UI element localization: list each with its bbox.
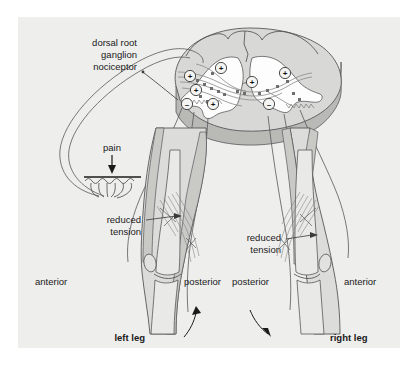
synapse-sign: + xyxy=(283,69,288,78)
label-anterior-left: anterior xyxy=(35,276,67,287)
synapse-sign: + xyxy=(211,100,216,109)
synapse-sign: + xyxy=(194,86,199,95)
label-dorsal-root-line1: dorsal root xyxy=(92,37,137,48)
dorsal-root-leader xyxy=(144,73,178,100)
synapse-sign: – xyxy=(185,100,190,109)
synapse-sign: – xyxy=(267,100,272,109)
synapse-marker-plus: + xyxy=(207,98,218,109)
movement-arrows xyxy=(184,306,271,337)
label-reduced-tension-right-line1: reduced xyxy=(247,232,281,243)
synapse-marker-plus: + xyxy=(215,62,226,73)
right-leg-motion-arrowhead xyxy=(262,328,271,337)
left-leg-group xyxy=(141,128,206,334)
label-posterior-right: posterior xyxy=(232,276,269,287)
synapse-marker-plus: + xyxy=(279,67,290,78)
label-dorsal-root-line3: nociceptor xyxy=(93,61,137,72)
label-reduced-tension-right-line2: tension xyxy=(250,244,281,255)
dorsal-root-leader-dot xyxy=(142,71,145,74)
right-leg-group xyxy=(277,128,340,334)
label-pain: pain xyxy=(103,142,121,153)
right-leg-tibia xyxy=(297,280,324,334)
label-right-leg: right leg xyxy=(330,332,368,343)
left-leg-motion-arrow xyxy=(184,313,196,337)
label-reduced-tension-left-line1: reduced xyxy=(107,214,141,225)
label-dorsal-root-line2: ganglion xyxy=(101,49,137,60)
synapse-marker-plus: + xyxy=(246,76,257,87)
synapse-marker-minus: – xyxy=(181,98,192,109)
left-leg-tibia xyxy=(151,280,178,334)
skin-receptor-group xyxy=(84,155,141,198)
free-nerve-endings xyxy=(91,183,132,198)
label-left-leg: left leg xyxy=(114,332,145,343)
figure-canvas: +++–+++– xyxy=(0,0,416,371)
label-reduced-tension-left-line2: tension xyxy=(110,226,141,237)
synapse-marker-minus: – xyxy=(263,98,274,109)
synapse-marker-plus: + xyxy=(190,84,201,95)
diagram-svg: +++–+++– xyxy=(0,0,416,371)
left-leg-motion-arrowhead xyxy=(192,306,201,315)
skin-wavy-layer xyxy=(85,179,134,184)
synapse-marker-plus: + xyxy=(184,70,195,81)
label-anterior-right: anterior xyxy=(344,276,376,287)
synapse-sign: + xyxy=(188,72,193,81)
synapse-sign: + xyxy=(250,78,255,87)
label-posterior-left: posterior xyxy=(184,276,221,287)
pain-arrowhead xyxy=(108,165,116,174)
synapse-sign: + xyxy=(219,64,224,73)
